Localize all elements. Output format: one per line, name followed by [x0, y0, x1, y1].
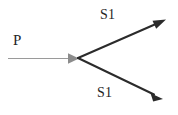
upper-s1-ray-label: S1: [100, 8, 115, 22]
ray-splitting-diagram: P S1 S1: [0, 0, 178, 115]
lower-s1-ray-label: S1: [97, 86, 112, 100]
lower-s1-ray-arrowhead: [151, 93, 164, 101]
lower-s1-ray-line: [78, 58, 154, 95]
diagram-canvas: [0, 0, 178, 115]
upper-s1-ray-arrowhead: [153, 20, 167, 29]
incident-ray-label: P: [13, 33, 22, 48]
upper-s1-ray-line: [78, 24, 157, 59]
